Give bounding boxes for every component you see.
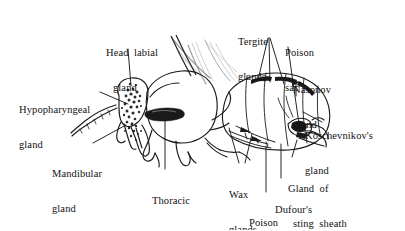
forewing-vein-1	[210, 42, 234, 80]
wax-arrow-1	[240, 127, 251, 132]
hindwing-vein-2	[196, 42, 213, 81]
forewing-vein-2	[216, 44, 238, 79]
label-line: Poison	[285, 47, 314, 59]
gland-stipple	[140, 130, 142, 132]
gland-stipple	[131, 123, 134, 126]
label-line: sting sheath	[288, 218, 347, 230]
label-line: Tergite	[238, 36, 268, 48]
hindwing-base-line	[176, 35, 196, 75]
wing-tip-sweep	[205, 41, 237, 72]
midleg-tarsus	[188, 152, 196, 163]
label-line: Head labial	[106, 47, 158, 59]
tergite-glands-label: Tergite glands	[238, 13, 268, 105]
label-line: gland	[52, 203, 102, 215]
label-line: gland	[106, 82, 158, 94]
gland-of-sting-sheath-label: Gland of sting sheath	[288, 160, 347, 230]
bee-gland-diagram: Head labial gland Hypopharyngeal gland M…	[0, 0, 405, 230]
leader-mandibular-gland	[93, 125, 126, 143]
petiole-outline	[212, 92, 230, 120]
gland-stipple	[133, 130, 135, 132]
head-labial-gland-label: Head labial gland	[106, 24, 158, 116]
hindleg-outline-lower	[207, 143, 227, 157]
label-line: Nasonov	[293, 84, 331, 96]
gland-stipple	[126, 121, 129, 124]
gland-stipple	[124, 130, 126, 132]
thoracic-labial-gland-label: Thoracic labial gland	[147, 172, 200, 230]
foreleg-tarsus	[155, 153, 159, 167]
mandibular-gland-label: Mandibular gland	[52, 145, 102, 230]
gland-stipple	[134, 118, 137, 121]
hindleg-tarsus	[239, 152, 250, 160]
wax-plate-hatch-1	[245, 133, 247, 139]
gland-stipple	[128, 127, 131, 130]
label-line: Koschevnikov's	[305, 130, 373, 142]
label-line: labial gland	[147, 230, 200, 231]
label-line: Gland of	[288, 183, 347, 195]
label-line: glands	[238, 71, 268, 83]
gland-stipple	[130, 135, 132, 137]
label-line: Mandibular	[52, 168, 102, 180]
label-line: Thoracic	[147, 195, 200, 207]
poison-gland-label: Poison gland	[249, 194, 278, 230]
gland-stipple	[135, 139, 137, 141]
gland-stipple	[128, 116, 131, 119]
label-line: Poison	[249, 217, 278, 229]
label-line: Hypopharyngeal	[19, 104, 90, 116]
leader-tergite-glands-mid	[269, 38, 270, 82]
gland-stipple	[135, 125, 137, 127]
gland-stipple	[137, 133, 139, 135]
